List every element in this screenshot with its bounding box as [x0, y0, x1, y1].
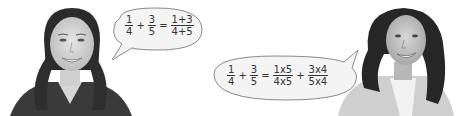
fraction: 35 — [250, 64, 258, 87]
fraction: 1x54x5 — [273, 64, 294, 87]
fraction: 35 — [148, 14, 156, 37]
right-speech-equation: 14 + 35 = 1x54x5 + 3x45x4 — [226, 64, 329, 87]
math-operator: = — [159, 20, 167, 31]
fraction: 14 — [227, 64, 235, 87]
numerator: 3x4 — [308, 64, 329, 75]
numerator: 1 — [125, 14, 133, 25]
denominator: 5 — [148, 26, 156, 37]
numerator: 3 — [250, 64, 258, 75]
left-speech-equation: 14 + 35 = 1+34+5 — [124, 14, 195, 37]
denominator: 4x5 — [273, 76, 294, 87]
math-operator: + — [136, 20, 144, 31]
numerator: 1 — [227, 64, 235, 75]
numerator: 1x5 — [273, 64, 294, 75]
fraction: 3x45x4 — [308, 64, 329, 87]
denominator: 4 — [125, 26, 133, 37]
fraction: 14 — [125, 14, 133, 37]
math-operator: = — [261, 70, 269, 81]
denominator: 5 — [250, 76, 258, 87]
denominator: 4 — [227, 76, 235, 87]
denominator: 4+5 — [171, 26, 194, 37]
denominator: 5x4 — [308, 76, 329, 87]
math-operator: + — [238, 70, 246, 81]
numerator: 3 — [148, 14, 156, 25]
math-operator: + — [296, 70, 304, 81]
fraction: 1+34+5 — [171, 14, 194, 37]
numerator: 1+3 — [171, 14, 194, 25]
